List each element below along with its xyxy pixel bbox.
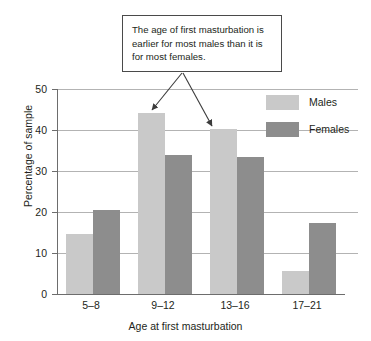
- bar-females-9-12: [165, 155, 192, 294]
- y-tick-label-0: 0: [17, 289, 47, 300]
- bar-males-17-21: [282, 271, 309, 294]
- x-category-label-9-12: 9–12: [128, 299, 198, 311]
- annotation-callout-box: The age of first masturbation is earlier…: [122, 15, 282, 72]
- legend-label-females: Females: [309, 123, 349, 135]
- bars-layer: [57, 89, 358, 294]
- y-tick-30: [52, 171, 57, 172]
- x-axis-title: Age at first masturbation: [0, 320, 371, 332]
- bar-chart-figure: 50 40 30 20 10 0 Percentage of sample 5–…: [0, 0, 371, 341]
- x-category-label-13-16: 13–16: [200, 299, 270, 311]
- y-tick-label-10: 10: [17, 248, 47, 259]
- x-axis-line: [57, 294, 345, 295]
- legend-swatch-females-icon: [266, 122, 299, 137]
- bar-males-5-8: [66, 234, 93, 294]
- bar-females-13-16: [237, 157, 264, 294]
- y-axis-line: [57, 89, 58, 295]
- x-category-label-5-8: 5–8: [56, 299, 126, 311]
- x-category-label-17-21: 17–21: [272, 299, 342, 311]
- annotation-callout-text: The age of first masturbation is earlier…: [132, 23, 276, 64]
- y-tick-10: [52, 253, 57, 254]
- bar-females-5-8: [93, 210, 120, 294]
- legend-label-males: Males: [309, 96, 337, 108]
- y-axis-title: Percentage of sample: [22, 86, 34, 226]
- legend-swatch-males-icon: [266, 95, 299, 110]
- bar-males-9-12: [138, 113, 165, 294]
- bar-females-17-21: [309, 223, 336, 294]
- y-tick-50: [52, 89, 57, 90]
- y-tick-0: [52, 294, 57, 295]
- bar-males-13-16: [210, 129, 237, 294]
- y-tick-20: [52, 212, 57, 213]
- y-tick-40: [52, 130, 57, 131]
